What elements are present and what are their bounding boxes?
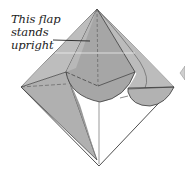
annotation-line-3: upright (11, 39, 61, 52)
origami-diagram: This flap stands upright (0, 0, 185, 177)
arrow-tip-icon (180, 66, 185, 80)
flap-annotation: This flap stands upright (11, 13, 61, 52)
